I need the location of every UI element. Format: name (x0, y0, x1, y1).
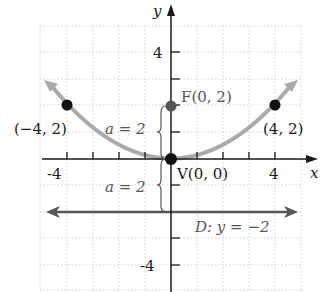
y-tick-label-neg4: -4 (140, 257, 155, 275)
point-left (62, 100, 73, 111)
x-axis-label: x (310, 164, 319, 182)
y-axis-arrow-icon (167, 4, 175, 16)
a-lower-label: a = 2 (105, 178, 146, 196)
x-axis-arrow-icon (306, 155, 318, 163)
y-axis-label: y (152, 2, 162, 20)
x-tick-label-4: 4 (269, 165, 279, 183)
x-tick-label-neg4: -4 (47, 165, 62, 183)
y-tick-label-4: 4 (153, 44, 163, 62)
brace-upper (157, 106, 166, 159)
parabola-diagram: y x 4 -4 -4 4 (−4, 2) (4, 2) F(0, 2) V(0… (0, 0, 323, 292)
right-point-label: (4, 2) (263, 120, 303, 138)
focus-label: F(0, 2) (181, 88, 232, 106)
point-right (270, 100, 281, 111)
vertex-point (165, 153, 177, 165)
y-axis (167, 4, 180, 292)
a-upper-label: a = 2 (105, 120, 146, 138)
left-point-label: (−4, 2) (14, 120, 67, 138)
brace-lower (157, 159, 166, 212)
directrix-line (46, 206, 298, 218)
focus-point (166, 101, 177, 112)
directrix-label: D: y = −2 (194, 218, 270, 236)
vertex-label: V(0, 0) (176, 165, 228, 183)
